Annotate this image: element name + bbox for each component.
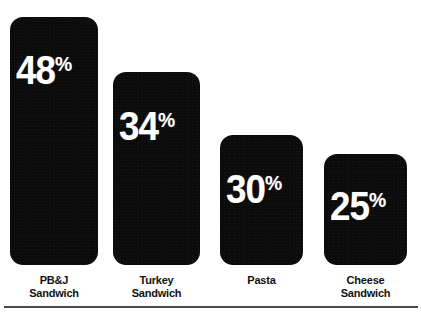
category-label-pbj-sandwich: PB&J Sandwich [10, 274, 98, 299]
bar-value-number-pasta: 30 [226, 173, 265, 206]
category-label-line1-turkey-sandwich: Turkey [139, 274, 173, 286]
bar-value-percent-pbj-sandwich: % [55, 55, 71, 72]
bar-group-cheese-sandwich: 25 % [324, 154, 407, 265]
category-label-line2-turkey-sandwich: Sandwich [113, 287, 200, 300]
bar-value-label-cheese-sandwich: 25 % [330, 190, 385, 223]
bar-chart: 48 % 34 % 30 % [0, 0, 421, 319]
bar-value-label-turkey-sandwich: 34 % [119, 110, 174, 143]
category-label-pasta: Pasta [220, 274, 303, 287]
bar-value-number-pbj-sandwich: 48 [16, 54, 55, 87]
bar-pasta[interactable]: 30 % [220, 135, 303, 265]
bar-value-percent-pasta: % [265, 174, 281, 191]
category-label-line2-cheese-sandwich: Sandwich [324, 287, 407, 300]
category-label-line1-cheese-sandwich: Cheese [347, 274, 385, 286]
category-label-turkey-sandwich: Turkey Sandwich [113, 274, 200, 299]
category-label-line1-pbj-sandwich: PB&J [40, 274, 69, 286]
bar-pbj-sandwich[interactable]: 48 % [10, 17, 98, 265]
bar-value-label-pbj-sandwich: 48 % [16, 54, 71, 87]
category-label-cheese-sandwich: Cheese Sandwich [324, 274, 407, 299]
bar-value-percent-turkey-sandwich: % [158, 111, 174, 128]
bar-cheese-sandwich[interactable]: 25 % [324, 154, 407, 265]
category-label-line1-pasta: Pasta [247, 274, 275, 286]
baseline-rule [4, 306, 418, 308]
bar-value-percent-cheese-sandwich: % [369, 191, 385, 208]
category-label-line2-pbj-sandwich: Sandwich [10, 287, 98, 300]
bar-turkey-sandwich[interactable]: 34 % [113, 72, 200, 265]
bar-group-pbj-sandwich: 48 % [10, 17, 98, 265]
bar-group-turkey-sandwich: 34 % [113, 72, 200, 265]
bar-value-number-cheese-sandwich: 25 [330, 190, 369, 223]
bar-value-label-pasta: 30 % [226, 173, 281, 206]
category-axis: PB&J Sandwich Turkey Sandwich Pasta Chee… [0, 265, 421, 307]
bar-group-pasta: 30 % [220, 135, 303, 265]
bar-value-number-turkey-sandwich: 34 [119, 110, 158, 143]
plot-area: 48 % 34 % 30 % [0, 0, 421, 265]
